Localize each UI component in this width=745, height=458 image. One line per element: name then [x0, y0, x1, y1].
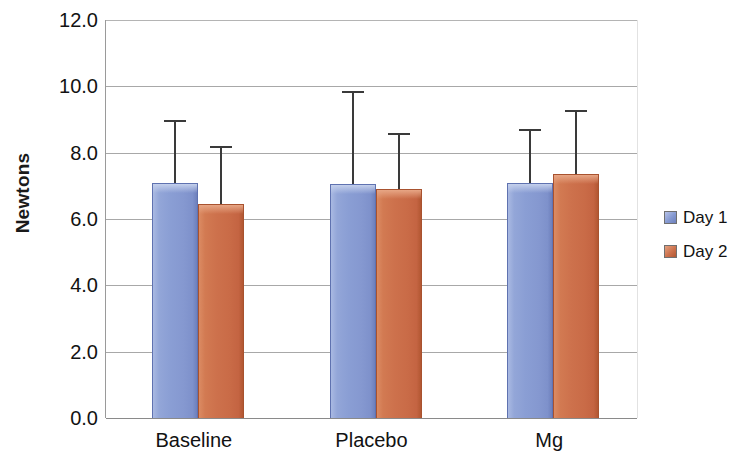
x-tick-label-placebo: Placebo	[283, 428, 461, 452]
y-tick-label: 10.0	[28, 76, 98, 96]
bar-chart-figure: Newtons 12.010.08.06.04.02.00.0 Baseline…	[0, 0, 745, 458]
error-bar-cap	[388, 133, 410, 135]
error-bar-stem	[220, 146, 222, 204]
day1-swatch	[664, 211, 677, 224]
bar-mg-day-2	[553, 174, 599, 418]
error-bar-stem	[529, 129, 531, 182]
y-tick-label: 0.0	[28, 408, 98, 428]
bar-placebo-day-1	[330, 184, 376, 418]
y-tick-label: 8.0	[28, 143, 98, 163]
y-tick-label: 2.0	[28, 342, 98, 362]
error-bar-cap	[164, 120, 186, 122]
y-tick-label: 6.0	[28, 209, 98, 229]
gridline	[106, 153, 637, 154]
y-tick-label: 12.0	[28, 10, 98, 30]
error-bar-stem	[398, 133, 400, 189]
gridline	[106, 20, 637, 21]
day2-swatch	[664, 245, 677, 258]
error-bar-cap	[210, 146, 232, 148]
legend-label: Day 1	[683, 209, 727, 226]
error-bar-stem	[575, 110, 577, 175]
y-tick-label: 4.0	[28, 275, 98, 295]
x-tick-label-baseline: Baseline	[105, 428, 283, 452]
error-bar-stem	[352, 91, 354, 184]
axis-baseline	[106, 418, 637, 419]
x-axis-tick-labels: BaselinePlaceboMg	[105, 428, 638, 458]
bar-baseline-day-2	[198, 204, 244, 418]
bar-mg-day-1	[507, 183, 553, 418]
x-tick-label-mg: Mg	[460, 428, 638, 452]
bar-baseline-day-1	[152, 183, 198, 418]
plot-area	[105, 20, 638, 418]
error-bar-cap	[342, 91, 364, 93]
legend-entry-day-1: Day 1	[664, 200, 744, 234]
chart-legend: Day 1Day 2	[664, 200, 744, 268]
legend-entry-day-2: Day 2	[664, 234, 744, 268]
legend-label: Day 2	[683, 243, 727, 260]
error-bar-cap	[565, 110, 587, 112]
error-bar-cap	[519, 129, 541, 131]
gridline	[106, 86, 637, 87]
bar-placebo-day-2	[376, 189, 422, 418]
error-bar-stem	[174, 120, 176, 183]
y-axis-tick-labels: 12.010.08.06.04.02.00.0	[28, 0, 98, 458]
